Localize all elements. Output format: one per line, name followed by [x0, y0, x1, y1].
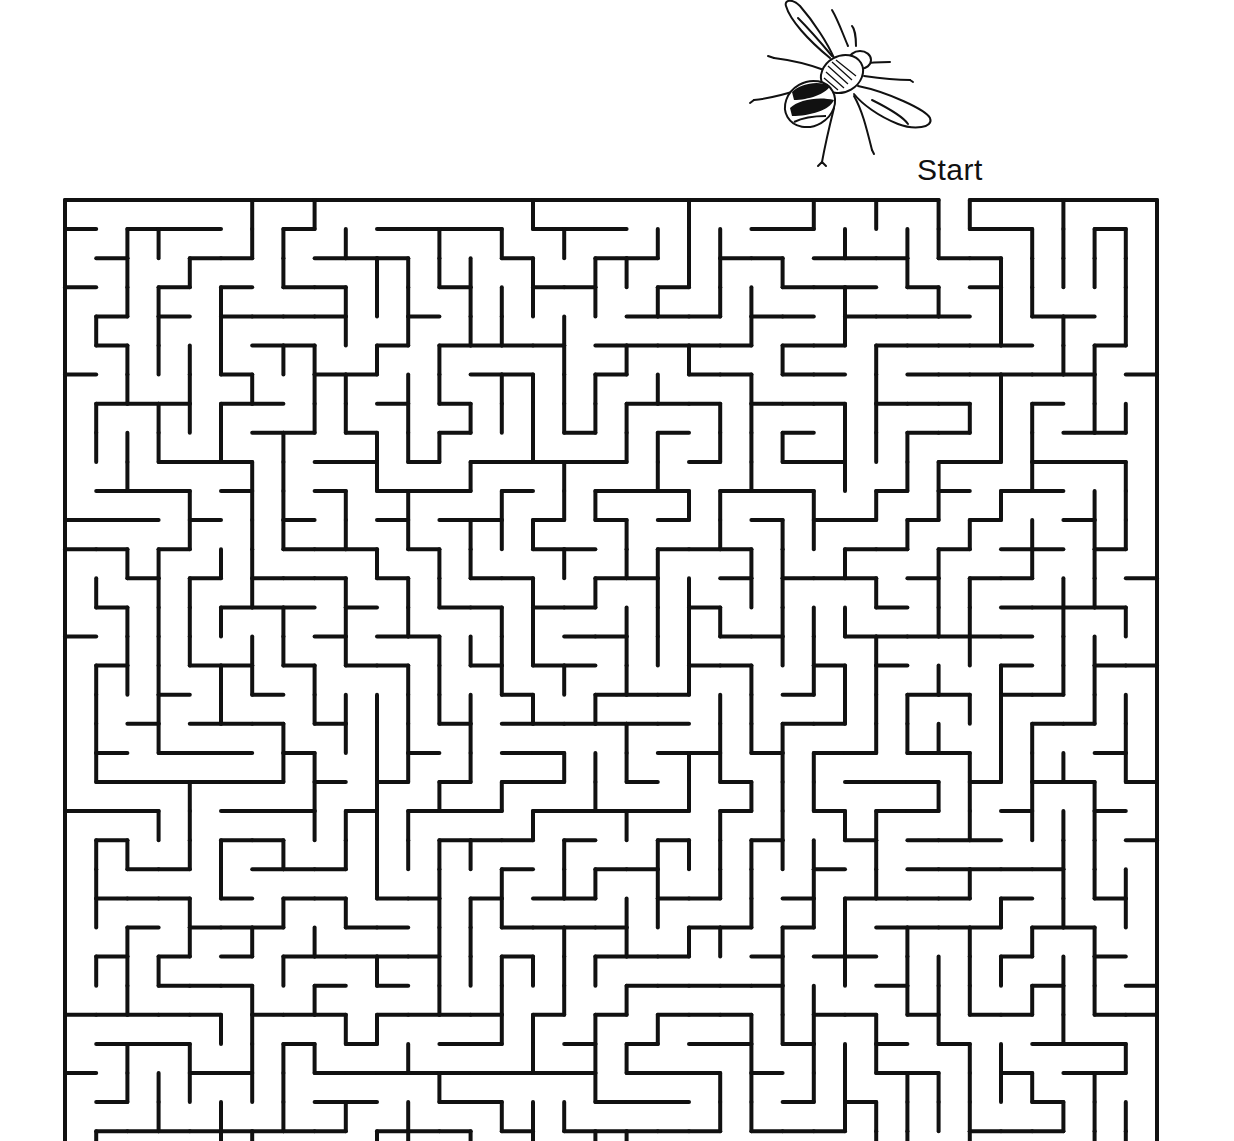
maze-grid[interactable] [0, 0, 1234, 1141]
